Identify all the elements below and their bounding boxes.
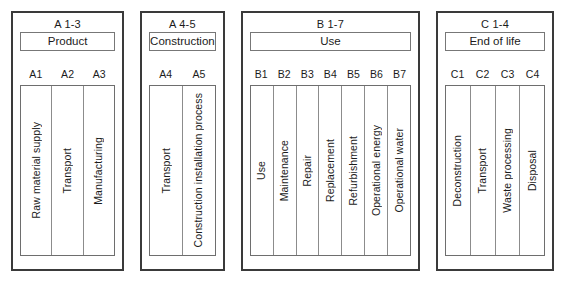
module-code-a3: A3 bbox=[83, 68, 115, 81]
lifecycle-stages-diagram: A 1-3ProductA1A2A3Raw material supplyTra… bbox=[0, 0, 564, 282]
module-code-a1: A1 bbox=[20, 68, 52, 81]
module-code-c1: C1 bbox=[445, 68, 470, 81]
module-label-b4: Replacement bbox=[325, 139, 336, 202]
module-cell-c3: Waste processing bbox=[496, 86, 521, 255]
module-label-b7: Operational water bbox=[394, 128, 405, 213]
module-code-b3: B3 bbox=[296, 68, 319, 81]
stage-group-endoflife: C 1-4End of lifeC1C2C3C4DeconstructionTr… bbox=[436, 11, 554, 271]
stage-title-endoflife: End of life bbox=[445, 32, 545, 51]
module-cell-a3: Manufacturing bbox=[84, 86, 114, 255]
module-label-a2: Transport bbox=[62, 148, 73, 193]
stage-group-use: B 1-7UseB1B2B3B4B5B6B7UseMaintenanceRepa… bbox=[241, 11, 420, 271]
module-code-c3: C3 bbox=[495, 68, 520, 81]
module-code-row-construction: A4A5 bbox=[149, 68, 216, 81]
module-label-b1: Use bbox=[256, 161, 267, 180]
module-cell-c1: Deconstruction bbox=[446, 86, 471, 255]
module-table-use: UseMaintenanceRepairReplacementRefurbish… bbox=[250, 85, 411, 256]
module-code-row-use: B1B2B3B4B5B6B7 bbox=[250, 68, 411, 81]
module-cell-b5: Refurbishment bbox=[342, 86, 365, 255]
stage-code-construction: A 4-5 bbox=[149, 18, 216, 32]
module-code-row-product: A1A2A3 bbox=[20, 68, 115, 81]
module-label-c4: Disposal bbox=[527, 150, 538, 191]
module-label-a4: Transport bbox=[161, 148, 172, 193]
module-cell-a4: Transport bbox=[150, 86, 183, 255]
module-cell-b2: Maintenance bbox=[274, 86, 297, 255]
module-code-row-endoflife: C1C2C3C4 bbox=[445, 68, 545, 81]
module-cell-a2: Transport bbox=[52, 86, 83, 255]
stage-code-product: A 1-3 bbox=[20, 18, 115, 32]
module-cell-b1: Use bbox=[251, 86, 274, 255]
module-label-c1: Deconstruction bbox=[452, 135, 463, 206]
module-code-b7: B7 bbox=[388, 68, 411, 81]
module-code-b6: B6 bbox=[365, 68, 388, 81]
module-code-b2: B2 bbox=[273, 68, 296, 81]
stage-code-endoflife: C 1-4 bbox=[445, 18, 545, 32]
module-table-product: Raw material supplyTransportManufacturin… bbox=[20, 85, 115, 256]
module-label-a3: Manufacturing bbox=[93, 137, 104, 205]
module-cell-b7: Operational water bbox=[388, 86, 410, 255]
module-label-a5: Construction installation process bbox=[193, 93, 204, 247]
module-cell-c2: Transport bbox=[471, 86, 496, 255]
module-code-a4: A4 bbox=[149, 68, 182, 81]
stage-group-product: A 1-3ProductA1A2A3Raw material supplyTra… bbox=[11, 11, 124, 271]
module-table-construction: TransportConstruction installation proce… bbox=[149, 85, 216, 256]
module-label-b5: Refurbishment bbox=[348, 136, 359, 206]
stage-group-construction: A 4-5ConstructionA4A5TransportConstructi… bbox=[140, 11, 225, 271]
module-label-a1: Raw material supply bbox=[31, 122, 42, 218]
module-cell-b3: Repair bbox=[297, 86, 320, 255]
stage-title-construction: Construction bbox=[149, 32, 216, 51]
stage-title-product: Product bbox=[20, 32, 115, 51]
module-code-b5: B5 bbox=[342, 68, 365, 81]
module-code-b1: B1 bbox=[250, 68, 273, 81]
module-label-c3: Waste processing bbox=[502, 128, 513, 213]
module-cell-c4: Disposal bbox=[520, 86, 544, 255]
module-code-c2: C2 bbox=[470, 68, 495, 81]
module-cell-b6: Operational energy bbox=[365, 86, 388, 255]
module-label-c2: Transport bbox=[477, 148, 488, 193]
module-cell-b4: Replacement bbox=[319, 86, 342, 255]
module-code-a5: A5 bbox=[182, 68, 215, 81]
module-label-b6: Operational energy bbox=[371, 125, 382, 216]
module-label-b2: Maintenance bbox=[279, 140, 290, 201]
module-cell-a1: Raw material supply bbox=[21, 86, 52, 255]
module-code-a2: A2 bbox=[52, 68, 84, 81]
module-label-b3: Repair bbox=[302, 155, 313, 187]
stage-title-use: Use bbox=[250, 32, 411, 51]
module-cell-a5: Construction installation process bbox=[183, 86, 215, 255]
module-table-endoflife: DeconstructionTransportWaste processingD… bbox=[445, 85, 545, 256]
stage-code-use: B 1-7 bbox=[250, 18, 411, 32]
module-code-c4: C4 bbox=[520, 68, 545, 81]
module-code-b4: B4 bbox=[319, 68, 342, 81]
